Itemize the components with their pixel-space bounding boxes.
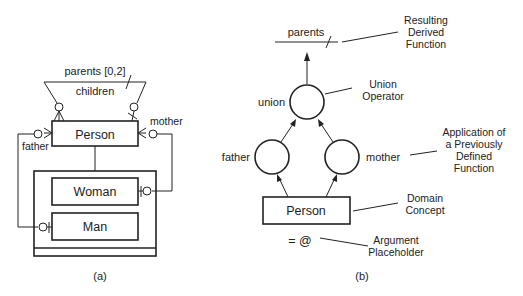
caption-a: (a) xyxy=(93,270,106,282)
annotation-prev-4: Function xyxy=(454,162,494,174)
function-mother-circle xyxy=(325,140,359,174)
crows-foot-icon xyxy=(138,128,146,133)
relationship-leg-left xyxy=(44,82,57,103)
leader-line xyxy=(325,88,352,94)
arrow-head-icon xyxy=(304,52,310,61)
role-father-label: father xyxy=(22,140,49,152)
function-father-circle xyxy=(255,140,289,174)
entity-man-label: Man xyxy=(83,220,107,234)
annotation-prev-3: Defined xyxy=(456,150,492,162)
role-mother-label: mother xyxy=(150,115,183,127)
annotation-arg-1: Argument xyxy=(373,234,419,246)
optional-circle-icon xyxy=(130,103,138,111)
derived-function-label: parents xyxy=(288,26,325,38)
annotation-domain-2: Concept xyxy=(405,204,444,216)
diagram-b: parents union father mother Person = @ R… xyxy=(222,14,506,282)
annotation-prev-2: a Previously xyxy=(445,138,503,150)
optional-circle-icon xyxy=(149,130,157,138)
argument-placeholder: = @ xyxy=(288,234,311,248)
crows-foot-icon xyxy=(54,111,59,121)
annotation-resulting-2: Derived xyxy=(408,26,444,38)
function-father-label: father xyxy=(222,151,250,163)
diagram-canvas: parents [0,2] children Person father xyxy=(0,0,523,296)
relationship-leg-right xyxy=(137,82,146,103)
leader-line xyxy=(342,32,398,42)
leader-line xyxy=(410,151,437,155)
optional-circle-icon xyxy=(143,187,151,195)
arrow-head-icon xyxy=(290,119,296,127)
entity-person-label: Person xyxy=(75,128,115,142)
annotation-union-1: Union xyxy=(369,78,397,90)
leader-line xyxy=(320,238,368,246)
annotation-prev-1: Application of xyxy=(442,126,505,138)
caption-b: (b) xyxy=(355,270,368,282)
annotation-arg-2: Placeholder xyxy=(368,246,424,258)
annotation-union-2: Operator xyxy=(362,90,404,102)
union-label: union xyxy=(258,96,285,108)
diagram-a: parents [0,2] children Person father xyxy=(18,65,183,282)
children-label: children xyxy=(76,85,115,97)
arrow-head-icon xyxy=(332,174,337,182)
arrow-head-icon xyxy=(318,119,324,127)
optional-circle-icon xyxy=(39,223,47,231)
function-mother-label: mother xyxy=(366,151,401,163)
optional-circle-icon xyxy=(55,103,63,111)
annotation-resulting-1: Resulting xyxy=(404,14,448,26)
annotation-domain-1: Domain xyxy=(407,192,443,204)
parents-cardinality-label: parents [0,2] xyxy=(64,65,125,77)
entity-woman-label: Woman xyxy=(74,185,117,199)
arrow-head-icon xyxy=(277,174,282,182)
union-operator-circle xyxy=(290,85,324,119)
leader-line xyxy=(353,203,398,211)
domain-concept-label: Person xyxy=(286,204,326,218)
optional-circle-icon xyxy=(34,130,42,138)
annotation-resulting-3: Function xyxy=(406,38,446,50)
crows-foot-icon xyxy=(44,128,52,133)
